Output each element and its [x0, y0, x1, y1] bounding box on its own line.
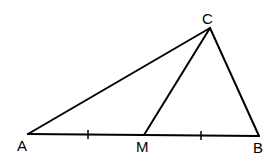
segment-cb: [210, 28, 259, 136]
triangle-diagram: A B C M: [0, 0, 280, 160]
segment-ac: [28, 28, 210, 134]
label-c: C: [202, 10, 213, 27]
label-m: M: [136, 138, 149, 155]
label-a: A: [17, 137, 27, 154]
label-b: B: [253, 139, 263, 156]
segment-cm-median: [144, 28, 210, 135]
